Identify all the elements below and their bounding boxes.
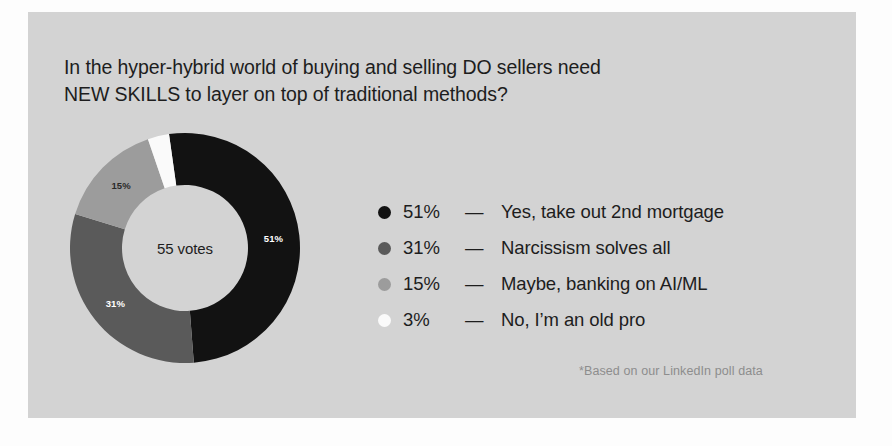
legend-label: Maybe, banking on AI/ML: [501, 273, 707, 295]
legend-dash: —: [465, 273, 501, 295]
poll-result-graphic: In the hyper-hybrid world of buying and …: [0, 0, 892, 446]
donut-slice-label: 31%: [106, 298, 126, 309]
legend-row: 3%—No, I’m an old pro: [378, 302, 724, 338]
legend-percent: 3%: [403, 309, 465, 331]
donut-chart: 51%31%15% 55 votes: [70, 133, 300, 363]
legend-bullet-icon: [378, 206, 391, 219]
legend-percent: 15%: [403, 273, 465, 295]
legend-label: Yes, take out 2nd mortgage: [501, 201, 724, 223]
legend-row: 15%—Maybe, banking on AI/ML: [378, 266, 724, 302]
donut-slice-label: 15%: [111, 180, 131, 191]
donut-slice-label: 51%: [264, 233, 284, 244]
legend-row: 31%—Narcissism solves all: [378, 230, 724, 266]
legend-bullet-icon: [378, 242, 391, 255]
legend-label: No, I’m an old pro: [501, 309, 645, 331]
donut-slice: [70, 214, 194, 363]
page-title: In the hyper-hybrid world of buying and …: [64, 54, 764, 108]
legend-dash: —: [465, 309, 501, 331]
legend-bullet-icon: [378, 314, 391, 327]
donut-slice-group: [70, 133, 300, 363]
footnote-text: *Based on our LinkedIn poll data: [579, 364, 763, 378]
legend-bullet-icon: [378, 278, 391, 291]
legend-dash: —: [465, 201, 501, 223]
legend-dash: —: [465, 237, 501, 259]
legend-row: 51%—Yes, take out 2nd mortgage: [378, 194, 724, 230]
legend-percent: 31%: [403, 237, 465, 259]
legend-percent: 51%: [403, 201, 465, 223]
donut-chart-svg: 51%31%15%: [70, 133, 300, 363]
chart-legend: 51%—Yes, take out 2nd mortgage31%—Narcis…: [378, 194, 724, 338]
legend-label: Narcissism solves all: [501, 237, 671, 259]
poll-card: In the hyper-hybrid world of buying and …: [28, 12, 856, 418]
